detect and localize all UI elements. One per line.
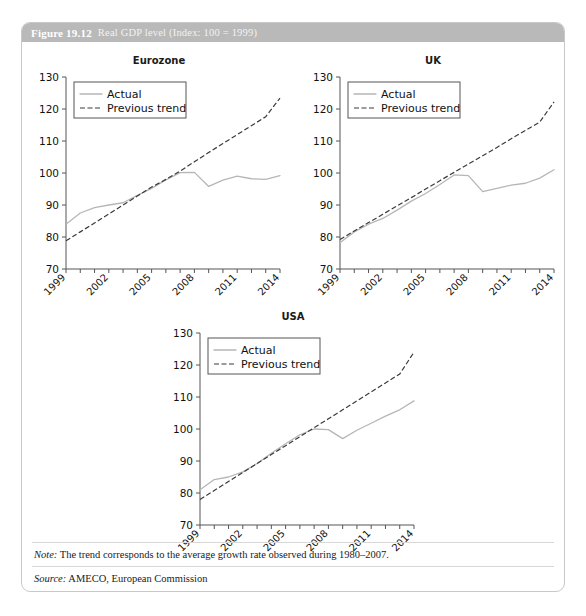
- y-tick-label: 70: [46, 263, 59, 275]
- figure-footer: Note: The trend corresponds to the avera…: [22, 542, 564, 591]
- source-label: Source:: [34, 573, 66, 584]
- chart-title-uk: UK: [302, 55, 564, 66]
- figure-title: Real GDP level (Index: 100 = 1999): [98, 27, 257, 38]
- x-tick-label: 2008: [170, 272, 196, 298]
- y-tick-label: 130: [313, 71, 333, 83]
- plot-area-uk: 7080901001101201301999200220052008201120…: [302, 69, 564, 315]
- y-tick-label: 90: [46, 199, 59, 211]
- x-tick-label: 2005: [401, 272, 427, 298]
- y-tick-label: 80: [46, 231, 59, 243]
- series-line-actual: [66, 172, 280, 224]
- figure-panel: Figure 19.12 Real GDP level (Index: 100 …: [21, 22, 565, 592]
- y-tick-label: 110: [173, 391, 193, 403]
- y-tick-label: 120: [173, 359, 193, 371]
- figure-header: Figure 19.12 Real GDP level (Index: 100 …: [22, 23, 564, 42]
- legend-label-trend: Previous trend: [381, 102, 460, 115]
- x-tick-label: 2008: [444, 272, 470, 298]
- x-tick-label: 1999: [42, 272, 68, 298]
- chart-uk: UK 7080901001101201301999200220052008201…: [302, 55, 564, 315]
- legend-label-actual: Actual: [241, 344, 275, 357]
- chart-title-usa: USA: [162, 311, 424, 322]
- legend-label-actual: Actual: [107, 88, 141, 101]
- series-line-previous-trend: [340, 102, 554, 240]
- chart-legend: ActualPrevious trend: [74, 82, 186, 118]
- legend-label-trend: Previous trend: [241, 358, 320, 371]
- x-tick-label: 2002: [84, 272, 110, 298]
- x-tick-label: 2005: [127, 272, 153, 298]
- y-tick-label: 80: [320, 231, 333, 243]
- y-tick-label: 130: [173, 327, 193, 339]
- chart-usa: USA 708090100110120130199920022005200820…: [162, 311, 424, 571]
- chart-legend: ActualPrevious trend: [348, 82, 460, 118]
- note-text: The trend corresponds to the average gro…: [60, 549, 389, 560]
- y-tick-label: 120: [313, 103, 333, 115]
- x-tick-label: 2002: [358, 272, 384, 298]
- x-tick-label: 2011: [213, 272, 239, 298]
- y-tick-label: 100: [39, 167, 59, 179]
- y-tick-label: 110: [313, 135, 333, 147]
- y-tick-label: 100: [173, 423, 193, 435]
- note-label: Note:: [34, 549, 57, 560]
- y-tick-label: 70: [180, 519, 193, 531]
- y-tick-label: 80: [180, 487, 193, 499]
- x-tick-label: 1999: [316, 272, 342, 298]
- source-row: Source: AMECO, European Commission: [22, 567, 564, 591]
- y-tick-label: 90: [180, 455, 193, 467]
- x-tick-label: 2011: [487, 272, 513, 298]
- x-tick-label: 2014: [530, 272, 556, 298]
- y-tick-label: 130: [39, 71, 59, 83]
- y-tick-label: 70: [320, 263, 333, 275]
- chart-legend: ActualPrevious trend: [208, 338, 320, 374]
- legend-label-trend: Previous trend: [107, 102, 186, 115]
- series-line-previous-trend: [66, 98, 280, 241]
- y-tick-label: 90: [320, 199, 333, 211]
- legend-label-actual: Actual: [381, 88, 415, 101]
- x-tick-label: 2014: [256, 272, 282, 298]
- note-row: Note: The trend corresponds to the avera…: [22, 543, 564, 567]
- series-line-actual: [200, 401, 414, 490]
- plot-area-eurozone: 7080901001101201301999200220052008201120…: [28, 69, 290, 315]
- series-line-actual: [340, 170, 554, 243]
- chart-eurozone: Eurozone 7080901001101201301999200220052…: [28, 55, 290, 315]
- chart-title-eurozone: Eurozone: [28, 55, 290, 66]
- source-text: AMECO, European Commission: [68, 573, 207, 584]
- y-tick-label: 100: [313, 167, 333, 179]
- y-tick-label: 110: [39, 135, 59, 147]
- y-tick-label: 120: [39, 103, 59, 115]
- figure-number: Figure 19.12: [31, 27, 92, 39]
- plot-area-usa: 7080901001101201301999200220052008201120…: [162, 325, 424, 571]
